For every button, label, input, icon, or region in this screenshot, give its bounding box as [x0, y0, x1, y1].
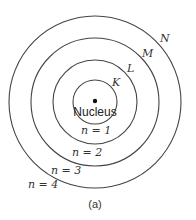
shell-letter-l: L	[126, 62, 134, 75]
shell-n1-label: n = 1	[81, 124, 111, 137]
shell-n3-label: n = 3	[51, 164, 81, 177]
nucleus-dot-icon	[93, 99, 97, 103]
shell-letter-n: N	[159, 32, 170, 45]
nucleus-label: Nucleus	[73, 105, 116, 119]
shell-n4-label: n = 4	[28, 178, 58, 191]
figure-caption: (a)	[88, 198, 101, 210]
shell-letter-m: M	[141, 47, 154, 60]
shell-letter-k: K	[111, 76, 121, 89]
shell-n2-label: n = 2	[72, 146, 102, 159]
bohr-atom-diagram: Nucleus K L M N n = 1 n = 2 n = 3 n = 4 …	[0, 0, 196, 220]
